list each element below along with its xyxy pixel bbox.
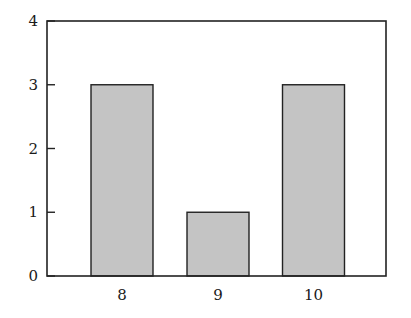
bars-group	[91, 85, 345, 276]
x-axis-ticks: 8910	[117, 286, 323, 304]
bar-8	[91, 85, 153, 276]
y-tick-label: 4	[28, 12, 38, 30]
x-tick-label: 10	[304, 286, 323, 304]
bar-chart: 01234 8910	[0, 0, 411, 318]
x-tick-label: 8	[117, 286, 127, 304]
y-tick-label: 2	[28, 140, 38, 158]
y-axis-ticks: 01234	[28, 12, 55, 285]
x-tick-label: 9	[213, 286, 223, 304]
bar-9	[187, 212, 249, 276]
bar-10	[283, 85, 345, 276]
y-tick-label: 0	[28, 267, 38, 285]
y-tick-label: 3	[28, 76, 38, 94]
y-tick-label: 1	[28, 203, 38, 221]
